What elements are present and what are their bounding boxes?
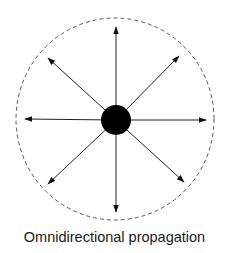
point-source-dot [101, 105, 131, 135]
omnidirectional-propagation-figure: Omnidirectional propagation [0, 0, 229, 253]
figure-caption: Omnidirectional propagation [0, 228, 229, 246]
propagation-diagram [0, 0, 229, 253]
